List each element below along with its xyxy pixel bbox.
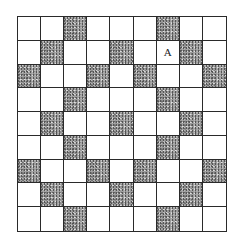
- shaded-cell: [180, 41, 203, 65]
- shaded-cell: [157, 88, 180, 112]
- cell-label: A: [164, 46, 172, 58]
- empty-cell: [134, 17, 157, 41]
- empty-cell: [157, 183, 180, 207]
- empty-cell: [18, 41, 41, 65]
- empty-cell: [157, 160, 180, 184]
- empty-cell: [18, 136, 41, 160]
- empty-cell: [180, 160, 203, 184]
- shaded-cell: [64, 17, 87, 41]
- shaded-cell: [64, 207, 87, 231]
- shaded-cell: [134, 160, 157, 184]
- empty-cell: [87, 88, 110, 112]
- empty-cell: [18, 207, 41, 231]
- empty-cell: [134, 136, 157, 160]
- empty-cell: [87, 136, 110, 160]
- shaded-cell: [157, 17, 180, 41]
- empty-cell: [87, 183, 110, 207]
- empty-cell: [203, 207, 226, 231]
- empty-cell: [110, 17, 133, 41]
- empty-cell: [203, 17, 226, 41]
- shaded-cell: [180, 183, 203, 207]
- shaded-cell: [157, 207, 180, 231]
- checker-grid: A: [17, 16, 227, 232]
- shaded-cell: [180, 112, 203, 136]
- empty-cell: [203, 41, 226, 65]
- empty-cell: [110, 160, 133, 184]
- empty-cell: [64, 112, 87, 136]
- empty-cell: [134, 207, 157, 231]
- empty-cell: [134, 41, 157, 65]
- shaded-cell: [64, 136, 87, 160]
- empty-cell: [134, 112, 157, 136]
- empty-cell: [41, 160, 64, 184]
- empty-cell: [64, 183, 87, 207]
- empty-cell: [87, 207, 110, 231]
- shaded-cell: [110, 41, 133, 65]
- shaded-cell: [18, 65, 41, 89]
- empty-cell: [110, 207, 133, 231]
- empty-cell: [64, 65, 87, 89]
- shaded-cell: [18, 160, 41, 184]
- empty-cell: [203, 136, 226, 160]
- empty-cell: [110, 88, 133, 112]
- empty-cell: [18, 17, 41, 41]
- empty-cell: [157, 112, 180, 136]
- empty-cell: [180, 136, 203, 160]
- empty-cell: [41, 17, 64, 41]
- empty-cell: [41, 88, 64, 112]
- empty-cell: [41, 136, 64, 160]
- empty-cell: [87, 41, 110, 65]
- empty-cell: [41, 207, 64, 231]
- empty-cell: [203, 112, 226, 136]
- shaded-cell: [41, 183, 64, 207]
- shaded-cell: [157, 136, 180, 160]
- empty-cell: [64, 160, 87, 184]
- empty-cell: [18, 183, 41, 207]
- shaded-cell: [110, 112, 133, 136]
- shaded-cell: [134, 65, 157, 89]
- empty-cell: [134, 183, 157, 207]
- empty-cell: [87, 112, 110, 136]
- shaded-cell: [110, 183, 133, 207]
- empty-cell: [18, 112, 41, 136]
- empty-cell: [110, 136, 133, 160]
- empty-cell: [87, 17, 110, 41]
- empty-cell: A: [157, 41, 180, 65]
- empty-cell: [157, 65, 180, 89]
- shaded-cell: [203, 65, 226, 89]
- empty-cell: [180, 207, 203, 231]
- shaded-cell: [41, 112, 64, 136]
- empty-cell: [18, 88, 41, 112]
- empty-cell: [41, 65, 64, 89]
- empty-cell: [134, 88, 157, 112]
- empty-cell: [180, 88, 203, 112]
- empty-cell: [180, 17, 203, 41]
- empty-cell: [110, 65, 133, 89]
- shaded-cell: [64, 88, 87, 112]
- empty-cell: [64, 41, 87, 65]
- empty-cell: [203, 88, 226, 112]
- shaded-cell: [203, 160, 226, 184]
- shaded-cell: [87, 65, 110, 89]
- empty-cell: [180, 65, 203, 89]
- empty-cell: [203, 183, 226, 207]
- shaded-cell: [87, 160, 110, 184]
- shaded-cell: [41, 41, 64, 65]
